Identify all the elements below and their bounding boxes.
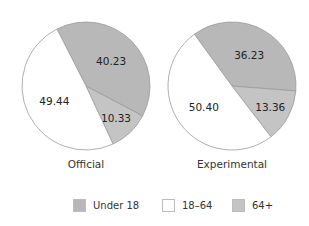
pie-experimental: 36.2313.3650.40 [168,22,296,150]
legend-label: 18–64 [182,200,212,211]
legend-item-64-plus: 64+ [232,196,273,214]
legend: Under 18 18–64 64+ [0,196,309,214]
pie-value-label: 10.33 [101,112,131,124]
legend-swatch-under-18 [73,199,86,212]
legend-swatch-64-plus [232,199,245,212]
legend-swatch-18-64 [162,199,175,212]
legend-item-18-64: 18–64 [162,196,212,214]
legend-item-under-18: Under 18 [73,196,139,214]
pie-title-experimental: Experimental [197,158,267,170]
legend-label: 64+ [252,200,273,211]
pie-value-label: 36.23 [234,49,264,61]
pie-value-label: 50.40 [189,101,219,113]
pie-value-label: 49.44 [39,95,69,107]
pie-value-label: 40.23 [96,55,126,67]
pie-charts: 40.2310.3349.44 36.2313.3650.40 Official… [0,0,309,226]
pie-title-official: Official [68,158,104,170]
pie-official: 40.2310.3349.44 [22,22,150,150]
pie-value-label: 13.36 [255,101,285,113]
legend-label: Under 18 [93,200,139,211]
